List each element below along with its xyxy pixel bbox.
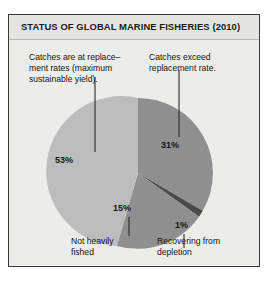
callout-not-heavily-fished: Not heavily fished (71, 236, 145, 258)
slice-value-1: 1% (175, 220, 188, 230)
chart-panel: STATUS OF GLOBAL MARINE FISHERIES (2010) (8, 14, 260, 267)
slice-value-31: 31% (161, 140, 179, 150)
slice-value-15: 15% (113, 203, 131, 213)
callout-catches-exceed: Catches exceed replacement rate. (149, 52, 259, 74)
page-title: STATUS OF GLOBAL MARINE FISHERIES (2010) (21, 21, 240, 32)
callout-recovering-from-depletion: Recovering from depletion (157, 236, 257, 258)
callout-catches-at-replacement: Catches are at replace– ment rates (maxi… (29, 52, 147, 86)
pie-chart-plot-area: Catches are at replace– ment rates (maxi… (9, 40, 259, 267)
figure-container: STATUS OF GLOBAL MARINE FISHERIES (2010) (0, 0, 268, 283)
title-bar: STATUS OF GLOBAL MARINE FISHERIES (2010) (9, 15, 259, 40)
slice-value-53: 53% (55, 155, 73, 165)
